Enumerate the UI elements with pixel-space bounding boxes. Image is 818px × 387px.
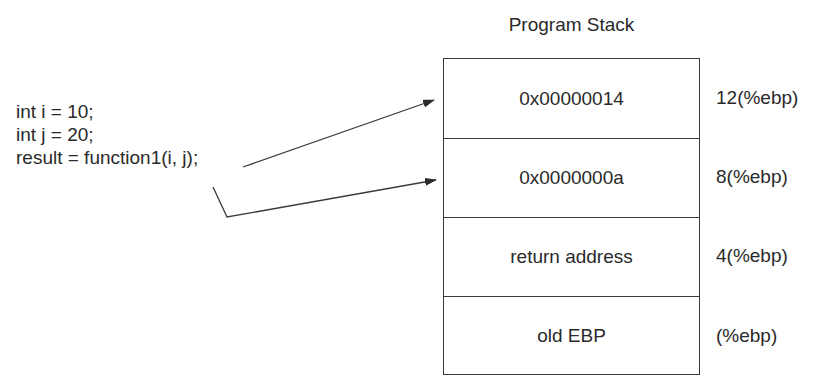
arrow-j-to-12ebp-icon [243,100,434,167]
arrow-i-to-8ebp-icon [213,180,436,217]
arrows-layer [0,0,818,387]
